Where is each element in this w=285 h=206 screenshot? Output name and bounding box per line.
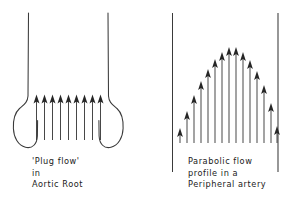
flow-arrow (90, 95, 96, 141)
flow-arrow (177, 128, 183, 143)
flow-arrow (198, 81, 204, 143)
flow-arrow (233, 47, 239, 143)
flow-arrow (254, 71, 260, 143)
flow-arrow (98, 95, 104, 141)
flow-arrow (212, 59, 218, 143)
flow-arrow (42, 95, 48, 141)
flow-arrow (274, 126, 280, 143)
flow-arrow (247, 60, 253, 143)
flow-arrow (191, 95, 197, 143)
flow-arrow (226, 47, 232, 143)
peripheral-artery-caption: Parabolic flow profile in a Peripheral a… (188, 156, 266, 191)
flow-arrow (66, 95, 72, 141)
flow-arrow (268, 103, 274, 143)
flow-arrow (34, 95, 40, 141)
plug-flow-arrow-group (34, 95, 104, 141)
flow-arrow (58, 95, 64, 141)
flow-arrow (50, 95, 56, 141)
flow-arrow (240, 52, 246, 143)
flow-profiles-diagram: 'Plug flow' in Aortic Root Parabolic flo… (0, 0, 285, 206)
flow-arrow (205, 69, 211, 143)
flow-arrow (261, 85, 267, 143)
flow-arrow (184, 111, 190, 143)
aortic-root-caption: 'Plug flow' in Aortic Root (32, 156, 83, 191)
parabolic-flow-arrow-group (177, 47, 280, 143)
flow-arrow (219, 52, 225, 143)
flow-arrow (74, 95, 80, 141)
flow-arrow (82, 95, 88, 141)
